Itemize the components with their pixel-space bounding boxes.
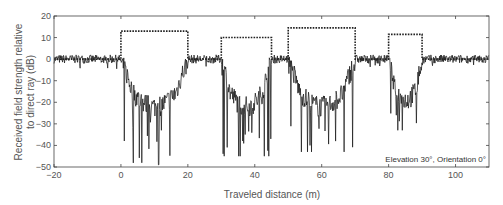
x-tick-label: 20 xyxy=(183,170,193,180)
x-tick-label: 0 xyxy=(118,170,123,180)
x-tick-label: 40 xyxy=(250,170,260,180)
field-strength-line xyxy=(54,55,489,165)
plot-frame xyxy=(54,16,489,167)
building-profile-line xyxy=(54,28,489,59)
x-axis-label: Traveled distance (m) xyxy=(224,189,320,200)
x-tick-label: 100 xyxy=(448,170,463,180)
y-tick-label: 0 xyxy=(46,54,51,64)
annotation-text: Elevation 30°, Orientation 0° xyxy=(385,155,486,164)
y-axis: 20100−10−20−30−40−50 xyxy=(36,11,489,172)
y-tick-label: −10 xyxy=(36,76,51,86)
field-strength-chart: 20100−10−20−30−40−50 −20020406080100 Tra… xyxy=(0,0,503,205)
x-tick-label: −20 xyxy=(46,170,61,180)
y-tick-label: −20 xyxy=(36,97,51,107)
y-axis-label-line2: to direct ray (dB) xyxy=(25,55,36,129)
y-tick-label: −40 xyxy=(36,140,51,150)
x-tick-label: 60 xyxy=(317,170,327,180)
y-tick-label: −30 xyxy=(36,119,51,129)
plot-area xyxy=(54,28,489,165)
y-tick-label: 10 xyxy=(41,33,51,43)
y-axis-label-line1: Received field strength relative xyxy=(13,23,24,160)
x-tick-label: 80 xyxy=(384,170,394,180)
y-tick-label: 20 xyxy=(41,11,51,21)
